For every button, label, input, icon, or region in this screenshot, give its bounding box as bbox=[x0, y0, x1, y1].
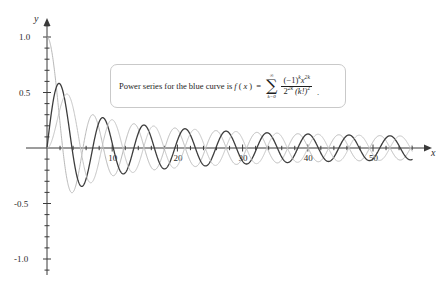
y-tick-label: -1.0 bbox=[14, 254, 29, 264]
summation-lower-limit: k=0 bbox=[268, 94, 276, 99]
figure-root: 1020304050 1.00.5-0.5-1.0 y x Power seri… bbox=[0, 0, 441, 289]
series-fraction: (−1)kx2k 22k (k!)2 bbox=[281, 76, 312, 96]
y-tick-label: -0.5 bbox=[14, 199, 29, 209]
function-variable: x bbox=[244, 81, 248, 91]
y-axis-label: y bbox=[33, 13, 39, 24]
axes-group bbox=[26, 18, 432, 275]
plot-canvas: 1020304050 1.00.5-0.5-1.0 y x bbox=[0, 0, 441, 289]
trailing-period: . bbox=[317, 87, 319, 99]
y-tick-label: 1.0 bbox=[19, 32, 31, 42]
function-name: f bbox=[234, 81, 236, 91]
curve-group bbox=[47, 37, 412, 193]
fraction-denominator: 22k (k!)2 bbox=[281, 87, 312, 96]
summation-sigma-icon: ∑ bbox=[266, 78, 277, 93]
callout-lead-text: Power series for the blue curve is bbox=[119, 81, 232, 91]
y-axis-arrow-icon bbox=[44, 18, 51, 26]
formula-callout-box: Power series for the blue curve is f(x) … bbox=[110, 64, 346, 108]
paren-close: ) bbox=[249, 81, 252, 91]
equals-sign: = bbox=[256, 81, 261, 91]
fraction-numerator: (−1)kx2k bbox=[282, 76, 312, 85]
curve-blue-curve-J0 bbox=[47, 37, 412, 193]
paren-open: ( bbox=[239, 81, 242, 91]
x-axis-label: x bbox=[430, 147, 436, 158]
summation-operator: ∞ ∑ k=0 bbox=[266, 73, 277, 98]
y-tick-label: 0.5 bbox=[19, 88, 31, 98]
formula-content: Power series for the blue curve is f(x) … bbox=[119, 73, 319, 98]
